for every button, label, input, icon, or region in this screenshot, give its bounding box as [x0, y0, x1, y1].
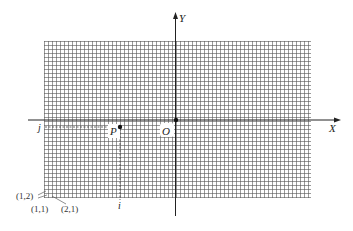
y-axis-arrow-icon [173, 12, 178, 19]
origin-label: O [162, 125, 170, 137]
image-coordinate-diagram: X Y j i P O (1,2) (1,1) (2,1) [0, 0, 353, 231]
y-axis-label: Y [179, 12, 187, 24]
pixel-label-1-2: (1,2) [16, 191, 33, 201]
point-p [118, 125, 122, 129]
origin-point [174, 118, 178, 122]
col-index-label: i [118, 200, 121, 211]
pixel-label-2-1: (2,1) [61, 204, 78, 214]
point-p-label: P [109, 125, 117, 137]
x-axis-label: X [328, 122, 337, 134]
row-index-label: j [36, 122, 41, 133]
pixel-label-1-1: (1,1) [31, 204, 48, 214]
